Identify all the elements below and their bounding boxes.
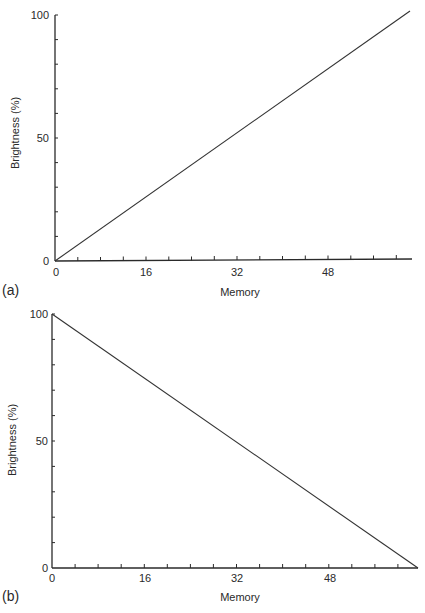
panel-b-brightness-line bbox=[52, 314, 418, 568]
panel-b-x-label-48: 48 bbox=[324, 572, 336, 584]
panel-a-x-axis bbox=[55, 259, 412, 261]
panel-b: 100 50 0 0 16 32 48 Memory Brightness (%… bbox=[2, 308, 418, 604]
panel-b-label: (b) bbox=[2, 588, 19, 604]
figure: 100 50 0 0 16 32 48 Memory Brightness (%… bbox=[0, 0, 425, 613]
panel-a: 100 50 0 0 16 32 48 Memory Brightness (%… bbox=[2, 9, 412, 298]
panel-a-y-label-0: 0 bbox=[43, 255, 49, 267]
panel-b-y-label-0: 0 bbox=[42, 562, 48, 574]
panel-a-x-label-48: 48 bbox=[322, 266, 334, 278]
panel-a-brightness-line bbox=[55, 11, 410, 261]
panel-b-y-axis-title: Brightness (%) bbox=[6, 404, 18, 476]
panel-b-y-label-100: 100 bbox=[30, 308, 48, 320]
panel-b-x-axis-title: Memory bbox=[220, 591, 260, 603]
panel-a-label: (a) bbox=[2, 282, 19, 298]
panel-a-y-label-100: 100 bbox=[31, 9, 49, 21]
panel-b-x-label-32: 32 bbox=[231, 572, 243, 584]
panel-a-y-label-50: 50 bbox=[37, 132, 49, 144]
panel-a-x-label-16: 16 bbox=[140, 266, 152, 278]
panel-b-x-label-16: 16 bbox=[139, 572, 151, 584]
panel-a-x-label-32: 32 bbox=[231, 266, 243, 278]
panel-a-x-axis-title: Memory bbox=[220, 286, 260, 298]
panel-b-x-label-0: 0 bbox=[49, 572, 55, 584]
panel-a-x-label-0: 0 bbox=[53, 266, 59, 278]
panel-b-y-label-50: 50 bbox=[36, 435, 48, 447]
panel-a-y-axis-title: Brightness (%) bbox=[9, 97, 21, 169]
